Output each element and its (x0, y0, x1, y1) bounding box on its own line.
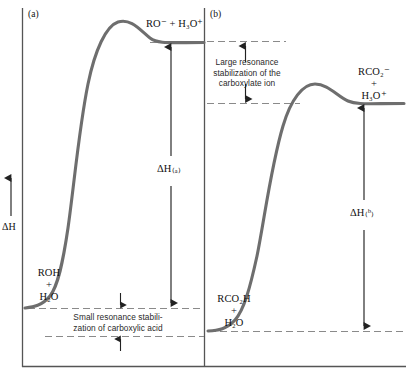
panel-a-tag: (a) (28, 9, 39, 20)
panel-b-enthalpy-label: ΔH₍ᵇ₎ (350, 207, 374, 219)
panel-b-product-label: RCO₂⁻ + H₃O⁺ (348, 66, 400, 101)
panel-b-product-line-2: + (348, 78, 400, 90)
panel-a-stabilization-note: Small resonance stabili- zation of carbo… (38, 312, 198, 333)
panel-b-stabilization-note: Large resonance stabilization of the car… (198, 57, 296, 89)
panel-a-reactant-line-1: ROH (28, 267, 70, 279)
panel-b-product-line-3: H₃O⁺ (348, 90, 400, 102)
panel-b-reactant-label: RCO₂H + H₂O (207, 293, 261, 328)
panel-b-product-line-1: RCO₂⁻ (348, 66, 400, 78)
y-axis-label: ΔH (2, 221, 16, 232)
panel-b-reactant-line-2: + (207, 305, 261, 317)
panel-a-reactant-line-3: H₂O (28, 291, 70, 303)
energy-diagram-figure: ΔH (a) (b) ROH + H₂O RO⁻ + H₃O⁺ ΔH₍ₐ₎ Sm… (0, 0, 407, 381)
panel-a-reactant-line-2: + (28, 279, 70, 291)
panel-a-product-label: RO⁻ + H₃O⁺ (146, 18, 204, 30)
panel-b-tag: (b) (210, 9, 221, 20)
panel-b-reactant-line-3: H₂O (207, 317, 261, 329)
panel-a-enthalpy-label: ΔH₍ₐ₎ (157, 163, 181, 175)
panel-b-reactant-line-1: RCO₂H (207, 293, 261, 305)
panel-a-reactant-label: ROH + H₂O (28, 267, 70, 302)
